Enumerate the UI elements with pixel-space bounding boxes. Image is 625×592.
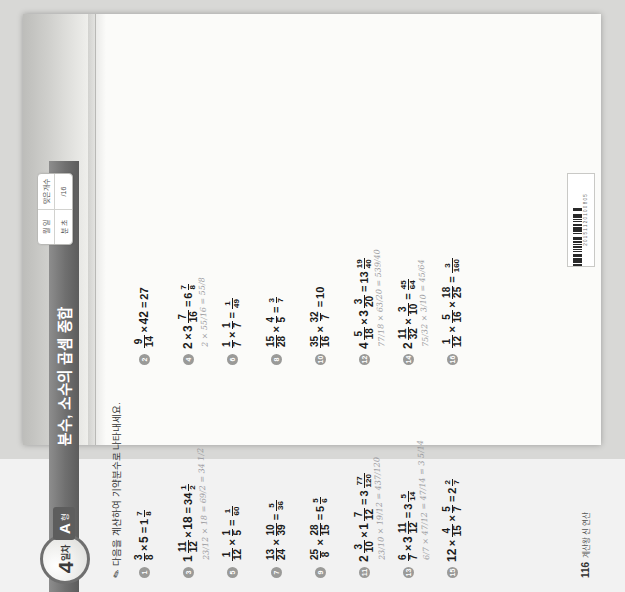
form-badge: A 형: [53, 507, 75, 540]
denominator: 28: [276, 335, 287, 348]
whole-part: 2: [357, 555, 371, 562]
numerator: 1: [442, 338, 452, 346]
operator: ×: [138, 545, 150, 551]
problem-number: 6: [227, 354, 238, 365]
equals-sign: =: [446, 496, 458, 502]
problem-item[interactable]: 311112×18=341223/12 × 18 = 69/2 = 34 1/2: [175, 387, 219, 578]
fraction: 3160: [444, 257, 461, 274]
mixed-number: 4518: [354, 326, 375, 349]
fraction-glyph: 514: [400, 491, 417, 502]
denominator: 49: [232, 298, 241, 309]
fraction-glyph: 3516: [310, 335, 331, 348]
barcode-bar: [573, 261, 582, 262]
problem-item[interactable]: 1512×415×57=227: [439, 387, 483, 578]
numerator: 11: [398, 521, 408, 534]
problem-answer: 678: [180, 283, 197, 299]
problem-number: 9: [315, 567, 326, 578]
fraction-glyph: 3160: [444, 258, 461, 273]
problem-item[interactable]: 112310×1712=37712023/10 × 19/12 = 437/12…: [351, 387, 395, 578]
barcode-bar: [573, 258, 582, 259]
barcode-bar: [573, 210, 582, 211]
numerator: 77: [356, 475, 364, 486]
denominator: 16: [188, 310, 199, 323]
equals-sign: =: [138, 527, 150, 533]
fraction-glyph: 149: [224, 298, 241, 309]
problem-item[interactable]: 138×5=178: [131, 387, 175, 578]
operator: ×: [446, 326, 458, 332]
fraction-glyph: 4564: [400, 279, 417, 290]
problem-number: 5: [227, 567, 238, 578]
barcode-bar: [573, 217, 582, 218]
problem-item[interactable]: 16112×516×1825=3160: [439, 174, 483, 365]
footer-note: 계산왕 신 연산: [580, 512, 591, 558]
numerator: 3: [354, 298, 364, 306]
problem-item[interactable]: 1367×31112=35146/7 × 47/12 = 47/14 = 3 5…: [395, 387, 439, 578]
fraction: 2815: [310, 522, 331, 537]
mixed-number: 3514: [400, 490, 417, 510]
operator: ×: [446, 301, 458, 307]
operator: ×: [446, 515, 458, 521]
barcode-bar: [573, 214, 582, 215]
barcode-bar: [573, 208, 582, 209]
problem-expression: 914×42=27: [131, 174, 157, 349]
barcode-bar: [573, 235, 582, 236]
mixed-number: 11112: [178, 539, 199, 562]
denominator: 10: [408, 303, 419, 316]
problem-item[interactable]: 2914×42=27: [131, 174, 175, 365]
numerator: 1: [222, 529, 232, 537]
problem-item[interactable]: 9258×2815=556: [307, 387, 351, 578]
barcode-bar: [573, 221, 582, 222]
problem-item[interactable]: 103516×327=10: [307, 174, 351, 365]
numerator: 11: [398, 327, 408, 340]
problem-item[interactable]: 42×3716=6782 × 55/16 = 55/8: [175, 174, 219, 365]
fraction-glyph: 17: [222, 340, 243, 348]
mixed-number: 131940: [356, 257, 373, 283]
problem-item[interactable]: 617×17=149: [219, 174, 263, 365]
fraction: 45: [266, 315, 287, 325]
page-title: 분수, 소수의 곱셈 종합: [53, 256, 74, 496]
fraction-glyph: 1324: [266, 548, 287, 561]
fraction: 1528: [266, 334, 287, 349]
day-badge: 4 일차: [40, 534, 90, 584]
barcode-bar: [573, 222, 582, 223]
equals-sign: =: [446, 276, 458, 282]
form-word: 형: [58, 513, 70, 521]
denominator: 16: [320, 335, 331, 348]
whole-part: 3: [181, 325, 195, 332]
problem-item[interactable]: 5112×15=160: [219, 387, 263, 578]
problem-number: 4: [183, 354, 194, 365]
barcode-bar: [573, 259, 582, 260]
score-box[interactable]: 월 일 맞은 개수 분 초 /16: [37, 173, 73, 245]
denominator: 7: [320, 313, 331, 321]
integer-term: 2: [181, 342, 195, 349]
barcode-bar: [573, 246, 582, 247]
denominator: 5: [232, 529, 243, 537]
problem-expression: 38×5=178: [131, 387, 157, 562]
barcode-bar: [573, 207, 582, 208]
problem-item[interactable]: 81528×45=37: [263, 174, 307, 365]
problem-item[interactable]: 124518×3320=13194077/18 × 63/20 = 539/40: [351, 174, 395, 365]
score-date-label: 월 일: [38, 209, 55, 244]
fraction-glyph: 17: [222, 321, 243, 329]
problem-item[interactable]: 71324×1039=536: [263, 387, 307, 578]
barcode-bar: [573, 215, 582, 216]
problem-expression: 112×15=160: [219, 387, 245, 562]
operator: ×: [314, 326, 326, 332]
fraction-glyph: 112: [442, 335, 463, 348]
numerator: 25: [310, 548, 320, 561]
fraction-glyph: 78: [180, 284, 197, 290]
integer-term: 5: [137, 536, 151, 543]
problem-expression: 17×17=149: [219, 174, 245, 349]
whole-part: 4: [357, 342, 371, 349]
fraction-glyph: 27: [444, 479, 461, 485]
page-header: 4 일차 A 형 분수, 소수의 곱셈 종합 월 일 맞은 개수 분 초 /16: [23, 161, 97, 592]
whole-part: 34: [182, 493, 194, 505]
problem-item[interactable]: 1421132×310=456475/32 × 3/10 = 45/64: [395, 174, 439, 365]
numerator: 1: [180, 484, 188, 490]
denominator: 10: [364, 540, 375, 553]
problem-number: 10: [315, 354, 326, 365]
page-number: 116: [580, 562, 591, 578]
problem-answer: 536: [268, 499, 285, 512]
numerator: 9: [134, 338, 144, 346]
fraction-glyph: 1825: [442, 286, 463, 299]
